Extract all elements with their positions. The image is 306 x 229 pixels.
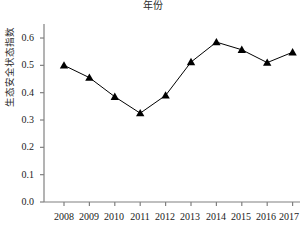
- y-tick-label-0.5: 0.5: [8, 60, 34, 70]
- chart-figure: 年份 生态安全状态指数 0.6 0.5 0.4 0.3 0.2 0.1 0.0 …: [0, 0, 306, 229]
- data-point-2017: [288, 48, 296, 55]
- y-tick-label-0.0: 0.0: [8, 197, 34, 207]
- y-tick-label-0.2: 0.2: [8, 142, 34, 152]
- series-line-eco-index: [64, 42, 293, 113]
- data-point-2008: [60, 61, 68, 68]
- data-point-2016: [263, 58, 271, 65]
- x-axis-ticks: [64, 202, 293, 206]
- plot-area: [0, 0, 306, 229]
- y-tick-label-0.4: 0.4: [8, 88, 34, 98]
- x-tick-label-2017: 2017: [269, 212, 306, 222]
- y-tick-label-0.3: 0.3: [8, 115, 34, 125]
- data-point-2010: [111, 93, 119, 100]
- chart-title: 年份: [0, 0, 306, 12]
- series-markers: [60, 38, 297, 116]
- data-point-2009: [85, 73, 93, 80]
- data-point-2013: [187, 58, 195, 65]
- data-point-2011: [136, 109, 144, 116]
- y-tick-label-0.6: 0.6: [8, 33, 34, 43]
- data-point-2014: [212, 38, 220, 45]
- y-tick-label-0.1: 0.1: [8, 170, 34, 180]
